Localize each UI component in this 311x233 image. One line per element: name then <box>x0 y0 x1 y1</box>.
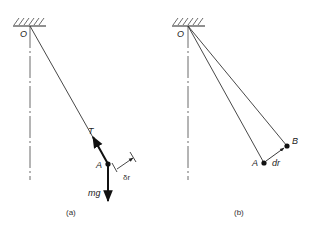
pendulum-diagrams: O T mg A δr (a) O <box>0 0 311 233</box>
point-b-label: B <box>292 136 298 146</box>
string-to-b <box>188 26 287 146</box>
tension-label: T <box>88 126 95 136</box>
figure-b: O A B dr (b) <box>172 18 298 217</box>
mass-point-icon <box>105 161 110 166</box>
point-a-icon <box>261 160 266 165</box>
caption-b: (b) <box>234 208 244 217</box>
virtual-displacement-icon <box>112 152 136 172</box>
ceiling-support-icon <box>172 18 205 26</box>
weight-label: mg <box>88 188 101 198</box>
pivot-label: O <box>177 29 184 39</box>
point-b-icon <box>284 143 289 148</box>
ceiling-support-icon <box>13 18 46 26</box>
mass-label: A <box>95 160 102 170</box>
displacement-label: dr <box>272 158 281 168</box>
caption-a: (a) <box>66 208 76 217</box>
point-a-label: A <box>251 158 258 168</box>
displacement-label: δr <box>123 173 130 182</box>
string-to-a <box>188 26 264 163</box>
figure-a: O T mg A δr (a) <box>13 18 136 217</box>
pivot-label: O <box>20 29 27 39</box>
